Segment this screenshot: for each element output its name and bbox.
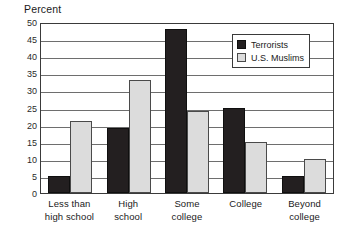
y-tick-label: 0 [3,189,37,199]
bar [70,121,92,193]
y-tick-label: 10 [3,155,37,165]
y-axis-title: Percent [24,3,61,15]
legend-label: U.S. Muslims [251,53,304,63]
bar [165,29,187,193]
legend-swatch-icon [237,40,246,49]
bar [48,176,70,193]
y-tick-label: 25 [3,104,37,114]
chart-legend: TerroristsU.S. Muslims [232,34,310,68]
bar [107,128,129,193]
bar [282,176,304,193]
y-tick-label: 35 [3,69,37,79]
bar-group [41,24,99,193]
bar-group [158,24,216,193]
bar-chart: Percent 50454035302520151050 Less thanhi… [0,0,345,249]
legend-item: U.S. Muslims [237,51,304,64]
y-axis-tick-labels: 50454035302520151050 [0,23,37,194]
legend-item: Terrorists [237,38,304,51]
y-tick-label: 50 [3,18,37,28]
x-tick-label: Beyondcollege [275,198,334,223]
x-axis-tick-labels: Less thanhigh schoolHighschoolSomecolleg… [40,198,334,223]
y-tick-label: 45 [3,35,37,45]
bar [304,159,326,193]
y-tick-label: 30 [3,86,37,96]
x-tick-label: College [216,198,275,223]
x-tick-label: Less thanhigh school [40,198,99,223]
y-tick-label: 20 [3,121,37,131]
y-tick-label: 5 [3,172,37,182]
bar [223,108,245,194]
x-tick-label: Highschool [99,198,158,223]
legend-label: Terrorists [251,40,288,50]
legend-swatch-icon [237,53,246,62]
bar-group [99,24,157,193]
x-tick-label: Somecollege [158,198,217,223]
y-tick-label: 40 [3,52,37,62]
bar [187,111,209,193]
bar [245,142,267,193]
y-tick-label: 15 [3,138,37,148]
bar [129,80,151,193]
